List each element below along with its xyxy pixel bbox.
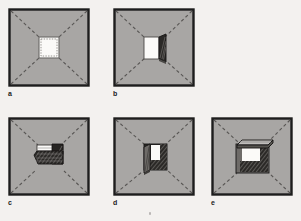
recess-floor-hatch-e (240, 161, 268, 172)
panel-label-b: b (113, 90, 117, 98)
panel-d-drawing (113, 117, 195, 196)
panel-e: e (211, 117, 293, 196)
opening-void-b (144, 37, 159, 59)
figure-plate: a b (0, 0, 301, 221)
panel-label-c: c (8, 199, 12, 207)
panel-c: c (8, 117, 90, 196)
panel-label-d: d (113, 199, 117, 207)
panel-label-a: a (8, 90, 12, 98)
central-opening-a (39, 37, 59, 58)
panel-c-drawing (8, 117, 90, 196)
panel-a-drawing (8, 8, 90, 87)
panel-e-drawing (211, 117, 293, 196)
recess-floor-hatch-d (148, 160, 167, 170)
panel-b-drawing (113, 8, 195, 87)
scan-speck (149, 212, 151, 215)
opening-void-d (151, 145, 160, 161)
opening-void-e (242, 147, 263, 162)
panel-d: d (113, 117, 195, 196)
awning-top-e (237, 140, 273, 145)
panel-label-e: e (211, 199, 215, 207)
panel-a: a (8, 8, 90, 87)
panel-b: b (113, 8, 195, 87)
laid-flap-c (34, 151, 63, 164)
